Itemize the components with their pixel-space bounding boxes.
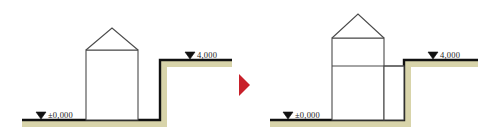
right-arrow-icon xyxy=(239,74,250,96)
level-label-ground-right: ±0,000 xyxy=(295,111,320,120)
level-label-ground-left: ±0,000 xyxy=(48,111,73,120)
level-label-upper-right: 4,000 xyxy=(440,51,460,60)
level-triangle-upper-left xyxy=(185,52,195,59)
gable-roof-right xyxy=(332,14,384,38)
diagram-canvas: ±0,000 4,000 ±0,000 4,000 xyxy=(0,0,482,137)
level-triangle-upper-right xyxy=(428,52,438,59)
house-body-left xyxy=(86,50,138,120)
level-triangle-ground-right xyxy=(283,112,293,119)
level-label-upper-left: 4,000 xyxy=(197,51,217,60)
level-triangle-ground-left xyxy=(36,112,46,119)
house-body-right xyxy=(332,38,384,120)
extension-wing-right xyxy=(384,66,404,120)
gable-roof-left xyxy=(86,28,138,50)
